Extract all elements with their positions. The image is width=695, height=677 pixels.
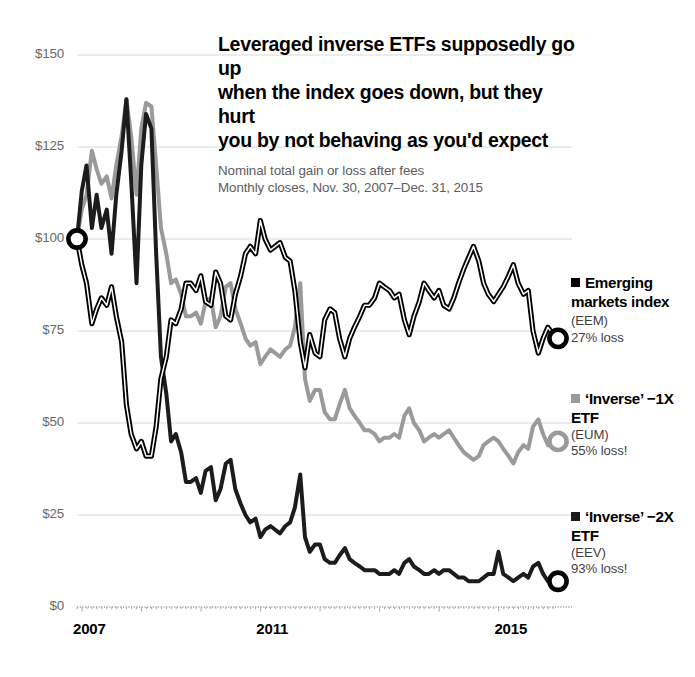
legend-swatch-eum — [571, 394, 580, 403]
chart-title-block: Leveraged inverse ETFs supposedly go up … — [218, 33, 578, 196]
legend-eum-loss: 55% loss! — [571, 443, 695, 458]
title-line-2: when the index goes down, but they hurt — [218, 81, 578, 129]
legend-item-eev[interactable]: ‘Inverse’ −2X ETF (EEV) 93% loss! — [571, 508, 695, 576]
y-tick-label-75: $75 — [8, 322, 64, 337]
subtitle-line-2: Monthly closes, Nov. 30, 2007–Dec. 31, 2… — [218, 179, 578, 196]
y-tick-label-50: $50 — [8, 414, 64, 429]
legend-eem-heading: Emerging markets index (EEM) — [571, 274, 695, 329]
endpoint-marker-eum — [549, 433, 566, 450]
subtitle-line-1: Nominal total gain or loss after fees — [218, 162, 578, 179]
legend-eev-heading: ‘Inverse’ −2X ETF — [571, 508, 695, 545]
legend-eev-loss: 93% loss! — [571, 561, 695, 576]
series-line-eem-outline — [77, 221, 558, 457]
legend-eum-heading: ‘Inverse’ −1X ETF — [571, 390, 695, 427]
legend-swatch-eem — [571, 278, 580, 287]
title-line-3: you by not behaving as you'd expect — [218, 129, 578, 153]
legend-eum-ticker: (EUM) — [571, 427, 695, 442]
legend-eev-name: ‘Inverse’ −2X ETF — [571, 508, 674, 544]
endpoint-marker-eev — [549, 573, 566, 590]
legend-eem-name: Emerging markets index — [571, 274, 669, 310]
chart-figure: Leveraged inverse ETFs supposedly go up … — [0, 0, 695, 677]
chart-subtitle: Nominal total gain or loss after fees Mo… — [218, 162, 578, 196]
y-tick-label-0: $0 — [8, 598, 64, 613]
y-tick-label-125: $125 — [8, 138, 64, 153]
x-tick-label-2011: 2011 — [256, 620, 288, 637]
x-tick-label-2015: 2015 — [494, 620, 527, 637]
series-line-eem-core — [77, 221, 558, 457]
endpoint-marker-eem — [549, 330, 566, 347]
legend-eum-name: ‘Inverse’ −1X ETF — [571, 390, 674, 426]
y-tick-label-100: $100 — [8, 230, 64, 245]
page-title: Leveraged inverse ETFs supposedly go up … — [218, 33, 578, 153]
legend-eem-ticker: (EEM) — [571, 313, 608, 328]
y-tick-label-150: $150 — [8, 46, 64, 61]
legend-swatch-eev — [571, 512, 580, 521]
legend-eev-ticker: (EEV) — [571, 545, 695, 560]
start-marker — [68, 230, 85, 247]
y-tick-label-25: $25 — [8, 506, 64, 521]
title-line-1: Leveraged inverse ETFs supposedly go up — [218, 33, 578, 81]
legend-item-eem[interactable]: Emerging markets index (EEM) 27% loss — [571, 274, 695, 345]
legend-item-eum[interactable]: ‘Inverse’ −1X ETF (EUM) 55% loss! — [571, 390, 695, 458]
x-tick-label-2007: 2007 — [73, 620, 106, 637]
legend-eem-loss: 27% loss — [571, 330, 695, 345]
